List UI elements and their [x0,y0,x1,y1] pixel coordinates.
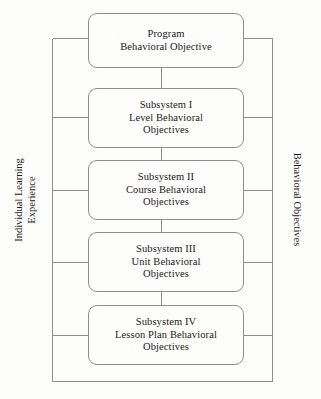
axis-label-left: Individual Learning Experience [0,0,50,399]
diagram-canvas: Program Behavioral Objective Subsystem I… [0,0,321,399]
node-subsystem-2-line2: Course Behavioral [126,184,206,197]
node-program[interactable]: Program Behavioral Objective [88,13,244,68]
node-subsystem-3-line3: Objectives [143,268,189,281]
node-subsystem-4[interactable]: Subsystem IV Lesson Plan Behavioral Obje… [88,305,244,365]
axis-label-left-line1: Individual Learning [12,158,25,242]
node-subsystem-1-line3: Objectives [143,124,189,137]
node-subsystem-4-line3: Objectives [143,341,189,354]
node-subsystem-1-line2: Level Behavioral [129,112,203,125]
axis-label-left-line2: Experience [25,158,38,242]
node-subsystem-2-line1: Subsystem II [138,171,194,184]
node-subsystem-3-line1: Subsystem III [136,243,196,256]
node-program-line1: Program [148,28,185,41]
node-subsystem-4-line1: Subsystem IV [136,316,196,329]
node-subsystem-2[interactable]: Subsystem II Course Behavioral Objective… [88,160,244,220]
node-subsystem-1-line1: Subsystem I [140,99,193,112]
node-subsystem-4-line2: Lesson Plan Behavioral [115,329,217,342]
node-subsystem-3-line2: Unit Behavioral [132,256,201,269]
node-program-line2: Behavioral Objective [120,41,212,54]
node-subsystem-3[interactable]: Subsystem III Unit Behavioral Objectives [88,232,244,292]
node-subsystem-2-line3: Objectives [143,196,189,209]
axis-label-right-line1: Behavioral Objectives [291,153,304,247]
node-subsystem-1[interactable]: Subsystem I Level Behavioral Objectives [88,88,244,148]
axis-label-right: Behavioral Objectives [274,0,321,399]
